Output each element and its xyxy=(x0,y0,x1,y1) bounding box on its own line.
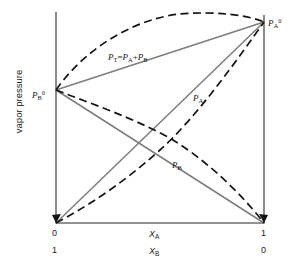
x-b-axis-title: XB xyxy=(149,246,159,257)
vapor-pressure-diagram: vapor pressure PA0 PB0 PT=PA+PB PA PB 0 … xyxy=(0,0,298,265)
x-b-tick-left: 1 xyxy=(52,245,57,255)
label-p-b-zero: PB0 xyxy=(32,89,45,101)
label-p-total-sub3: B xyxy=(143,56,147,63)
x-b-axis-title-sub: B xyxy=(155,250,159,257)
p-a-ideal-line xyxy=(56,22,264,223)
label-p-b: PB xyxy=(172,160,182,171)
label-p-a: PA xyxy=(193,93,203,104)
label-p-a-zero: PA0 xyxy=(268,17,281,29)
label-p-b-sub: B xyxy=(178,164,182,171)
x-a-tick-right: 1 xyxy=(261,228,266,238)
x-a-axis-title-sub: A xyxy=(155,233,159,240)
label-p-a-zero-sup: 0 xyxy=(278,17,281,24)
x-b-tick-right: 0 xyxy=(261,245,266,255)
y-axis-title: vapor pressure xyxy=(13,52,24,152)
x-a-tick-left: 0 xyxy=(52,228,57,238)
x-a-axis-title: XA xyxy=(149,229,159,240)
p-b-ideal-line xyxy=(56,90,264,223)
p-total-ideal-line xyxy=(56,22,264,90)
plot-canvas xyxy=(0,0,298,265)
label-p-a-sub: A xyxy=(199,97,204,104)
label-p-total: PT=PA+PB xyxy=(108,52,148,63)
label-p-b-zero-sup: 0 xyxy=(42,89,45,96)
